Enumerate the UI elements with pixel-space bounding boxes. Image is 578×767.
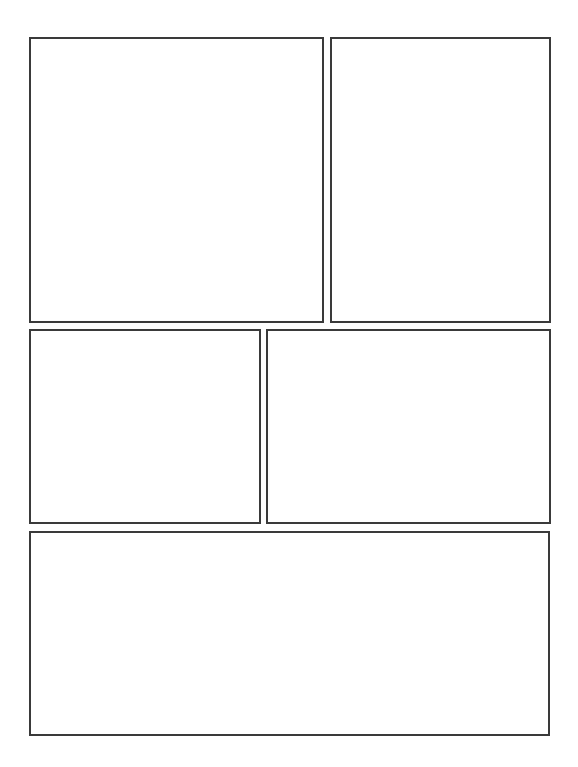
panel-4 (266, 329, 551, 524)
panel-2 (330, 37, 551, 323)
panel-3 (29, 329, 261, 524)
panel-1 (29, 37, 324, 323)
panel-5 (29, 531, 550, 736)
